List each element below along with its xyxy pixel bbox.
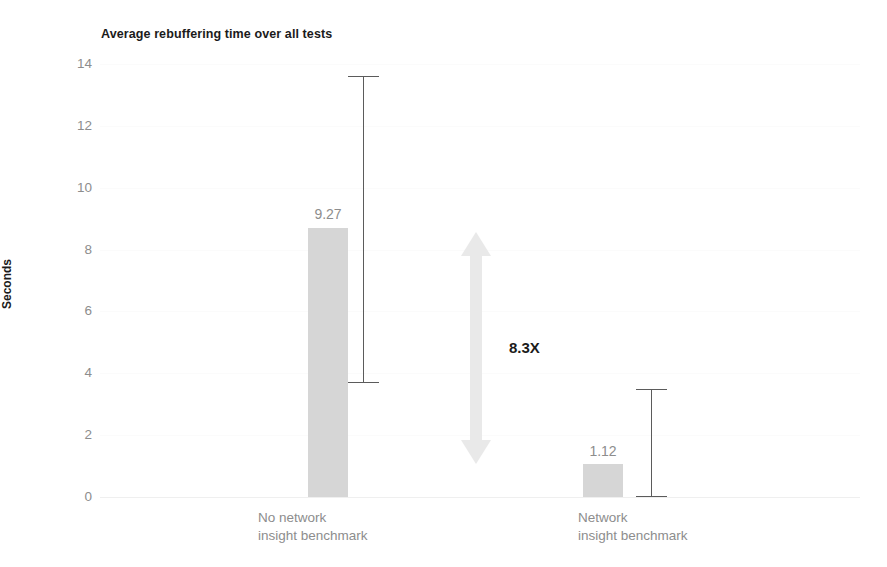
error-bar-stem-1: [363, 76, 364, 382]
x-category-label-2-line2: insight benchmark: [578, 527, 718, 545]
x-category-label-1-line2: insight benchmark: [258, 527, 398, 545]
x-category-label-2-line1: Network: [578, 509, 718, 527]
y-tick-0: 0: [56, 490, 92, 504]
y-tick-10: 10: [56, 181, 92, 195]
y-tick-6: 6: [56, 304, 92, 318]
error-bar-lower-cap-2: [636, 496, 667, 497]
error-bar-upper-cap-1: [348, 76, 379, 77]
bar-network-insight-benchmark[interactable]: [583, 464, 623, 497]
ratio-annotation-label: 8.3X: [509, 339, 540, 356]
error-bar-lower-cap-1: [348, 382, 379, 383]
gridline-10: [100, 188, 860, 189]
x-category-label-2: Network insight benchmark: [578, 509, 718, 545]
y-tick-4: 4: [56, 366, 92, 380]
x-category-label-1: No network insight benchmark: [258, 509, 398, 545]
chart-title: Average rebuffering time over all tests: [101, 27, 332, 41]
y-tick-14: 14: [56, 57, 92, 71]
y-tick-8: 8: [56, 243, 92, 257]
bar-no-network-insight-benchmark[interactable]: [308, 228, 348, 497]
y-tick-2: 2: [56, 428, 92, 442]
bar-value-label-1: 9.27: [288, 206, 368, 222]
gridline-12: [100, 126, 860, 127]
bar-value-label-2: 1.12: [563, 443, 643, 459]
y-tick-12: 12: [56, 119, 92, 133]
ratio-double-arrow-icon: [458, 230, 494, 466]
y-axis-tick-labels: 14 12 10 8 6 4 2 0: [54, 0, 92, 567]
gridline-14: [100, 64, 860, 65]
y-axis-title: Seconds: [0, 244, 14, 324]
error-bar-upper-cap-2: [636, 389, 667, 390]
error-bar-stem-2: [651, 389, 652, 497]
chart-figure: Average rebuffering time over all tests …: [0, 0, 887, 567]
x-axis-baseline: [100, 497, 860, 498]
x-category-label-1-line1: No network: [258, 509, 398, 527]
